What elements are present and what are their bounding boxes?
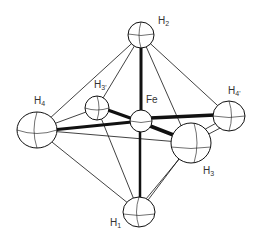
- label-H3-prime: H3': [94, 79, 106, 91]
- label-H4: H4: [34, 95, 45, 107]
- atom-H3-prime: [85, 96, 109, 120]
- label-H2: H2: [158, 15, 169, 27]
- label-H4-prime: H4': [228, 85, 240, 97]
- label-H3: H3: [203, 165, 214, 177]
- label-Fe: Fe: [146, 94, 158, 105]
- atom-H1: [123, 197, 155, 227]
- atom-H4: [17, 112, 57, 148]
- atom-H3: [171, 123, 211, 163]
- atom-H4-prime: [213, 101, 245, 131]
- atom-H2: [128, 22, 154, 48]
- atom-Fe: [130, 110, 152, 132]
- fe-h6-molecule-diagram: H2 H3' Fe H4 H4' H3 H1: [0, 0, 263, 248]
- label-H1: H1: [110, 217, 121, 229]
